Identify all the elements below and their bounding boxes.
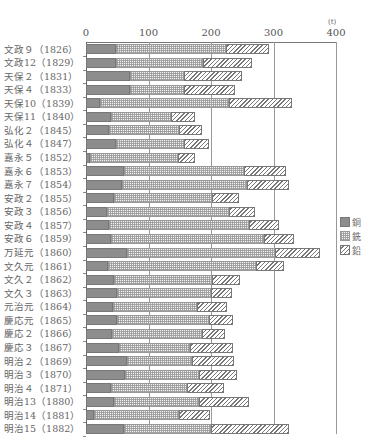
- bar-segment-lead: [229, 98, 293, 108]
- stacked-bar: [86, 193, 239, 203]
- row-label: 明治３（1870）: [4, 369, 84, 380]
- row-label: 文久２（1862）: [4, 274, 84, 285]
- bar-segment-iron: [113, 302, 197, 312]
- row-label: 明治４（1871）: [4, 383, 84, 394]
- bar-segment-lead: [199, 370, 237, 380]
- stacked-bar: [86, 288, 232, 298]
- row-label: 嘉永７（1854）: [4, 179, 84, 190]
- stacked-bar: [86, 424, 289, 434]
- bar-segment-lead: [211, 288, 232, 298]
- bar-segment-lead: [184, 139, 209, 149]
- stacked-bar: [86, 220, 279, 230]
- row-label: 明治２（1869）: [4, 356, 84, 367]
- stacked-bar: [86, 85, 235, 95]
- stacked-bar: [86, 153, 195, 163]
- bar-segment-lead: [212, 193, 240, 203]
- stacked-bar-chart: (t) 0100200300400 文政９（1826）文政12（1829）天保２…: [0, 0, 372, 445]
- row-label: 嘉永６（1853）: [4, 166, 84, 177]
- row-label: 慶応２（1866）: [4, 328, 84, 339]
- bar-segment-lead: [202, 329, 226, 339]
- bar-segment-iron: [116, 139, 184, 149]
- bar-segment-copper: [86, 98, 100, 108]
- row-label: 嘉永５（1852）: [4, 152, 84, 163]
- bar-segment-copper: [86, 397, 114, 407]
- bar-segment-copper: [86, 329, 112, 339]
- legend-item-copper: 銅: [340, 215, 361, 229]
- stacked-bar: [86, 329, 225, 339]
- legend-item-lead: 鉛: [340, 243, 361, 257]
- row-label: 天保11（1840）: [4, 111, 84, 122]
- bar-segment-iron: [111, 234, 264, 244]
- stacked-bar: [86, 44, 269, 54]
- bar-segment-copper: [86, 315, 117, 325]
- row-label: 慶応元（1865）: [4, 315, 84, 326]
- bar-segment-lead: [212, 275, 240, 285]
- row-label: 安政２（1855）: [4, 193, 84, 204]
- bar-segment-iron: [122, 180, 248, 190]
- row-label: 天保10（1839）: [4, 98, 84, 109]
- x-tick-label: 400: [326, 27, 345, 38]
- row-label: 明治13（1880）: [4, 396, 84, 407]
- bar-segment-copper: [86, 112, 111, 122]
- bar-segment-iron: [127, 248, 275, 258]
- stacked-bar: [86, 58, 252, 68]
- row-label: 文政12（1829）: [4, 57, 84, 68]
- bar-segment-lead: [179, 410, 211, 420]
- bar-segment-lead: [264, 234, 295, 244]
- legend-item-iron: 銑: [340, 229, 361, 243]
- bar-segment-lead: [184, 71, 243, 81]
- iron-swatch-icon: [340, 231, 350, 241]
- bar-segment-iron: [114, 397, 199, 407]
- stacked-bar: [86, 302, 227, 312]
- bar-segment-copper: [86, 139, 116, 149]
- bar-segment-iron: [112, 329, 202, 339]
- row-label: 明治14（1881）: [4, 410, 84, 421]
- row-label: 安政４（1857）: [4, 220, 84, 231]
- bar-segment-iron: [100, 98, 229, 108]
- bar-segment-copper: [86, 356, 127, 366]
- bar-segment-copper: [86, 207, 107, 217]
- bar-segment-lead: [275, 248, 320, 258]
- bar-segment-copper: [86, 125, 109, 135]
- bar-segment-iron: [119, 343, 191, 353]
- bar-segment-iron: [124, 166, 245, 176]
- bar-segment-iron: [116, 58, 203, 68]
- bar-segment-copper: [86, 220, 109, 230]
- bar-segment-lead: [229, 207, 256, 217]
- bar-segment-iron: [117, 288, 211, 298]
- row-label: 文久３（1863）: [4, 288, 84, 299]
- bar-segment-lead: [256, 261, 284, 271]
- legend-label: 鉛: [352, 244, 361, 257]
- stacked-bar: [86, 275, 240, 285]
- stacked-bar: [86, 166, 286, 176]
- bar-segment-lead: [226, 44, 269, 54]
- bar-segment-iron: [124, 424, 212, 434]
- stacked-bar: [86, 315, 233, 325]
- bar-segment-iron: [130, 85, 184, 95]
- row-label: 弘化４（1847）: [4, 138, 84, 149]
- bar-segment-iron: [116, 44, 226, 54]
- row-label: 安政３（1856）: [4, 206, 84, 217]
- row-label: 安政６（1859）: [4, 233, 84, 244]
- bar-segment-lead: [190, 343, 233, 353]
- stacked-bar: [86, 125, 202, 135]
- bar-segment-lead: [184, 85, 235, 95]
- row-label: 文政９（1826）: [4, 44, 84, 55]
- stacked-bar: [86, 71, 242, 81]
- bar-segment-copper: [86, 383, 111, 393]
- bar-segment-copper: [86, 410, 94, 420]
- bar-segment-copper: [86, 302, 113, 312]
- bar-segment-copper: [86, 166, 124, 176]
- bar-segment-iron: [111, 383, 187, 393]
- bar-segment-lead: [199, 397, 249, 407]
- row-label: 慶応３（1867）: [4, 342, 84, 353]
- bar-segment-iron: [127, 356, 192, 366]
- bar-segment-lead: [178, 153, 195, 163]
- bar-segment-lead: [209, 315, 233, 325]
- bar-segment-iron: [109, 220, 248, 230]
- bar-segment-iron: [90, 153, 178, 163]
- stacked-bar: [86, 248, 320, 258]
- legend-label: 銑: [352, 230, 361, 243]
- bar-segment-lead: [249, 220, 279, 230]
- bar-segment-copper: [86, 370, 125, 380]
